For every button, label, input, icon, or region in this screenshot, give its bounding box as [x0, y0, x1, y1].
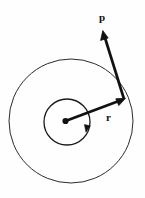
origin-center-dot: [62, 118, 68, 124]
momentum-vector-arrowhead: [101, 31, 109, 41]
momentum-vector-label: p: [99, 12, 105, 23]
momentum-vector-shaft: [105, 39, 124, 100]
angular-momentum-diagram: p r: [0, 0, 145, 198]
radius-vector-label: r: [106, 112, 111, 123]
outer-orbit-circle: [9, 59, 133, 183]
radius-vector-arrowhead: [116, 98, 126, 105]
radius-vector-shaft: [66, 100, 122, 121]
figure-canvas: [0, 0, 145, 198]
